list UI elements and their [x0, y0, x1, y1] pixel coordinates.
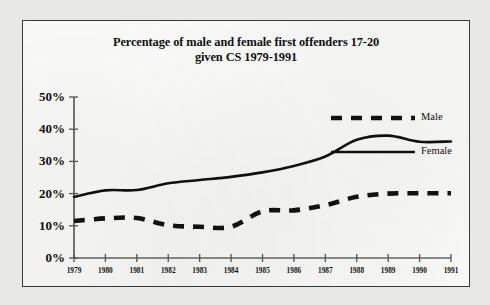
x-axis-label: 1984	[216, 266, 246, 275]
chart-plot-area	[23, 21, 471, 288]
y-axis-label: 0%	[23, 250, 65, 266]
series-line-female	[74, 136, 451, 197]
x-axis-label: 1980	[90, 266, 120, 275]
x-axis-label: 1991	[436, 266, 466, 275]
x-axis-label: 1989	[373, 266, 403, 275]
x-axis-label: 1988	[342, 266, 372, 275]
y-axis-label: 40%	[23, 121, 65, 137]
chart-figure: Percentage of male and female first offe…	[22, 20, 470, 287]
x-axis-label: 1987	[310, 266, 340, 275]
y-axis-label: 30%	[23, 153, 65, 169]
series-line-male	[74, 193, 451, 228]
x-axis-label: 1982	[153, 266, 183, 275]
x-axis-label: 1986	[279, 266, 309, 275]
x-axis-label: 1990	[405, 266, 435, 275]
y-axis-label: 50%	[23, 89, 65, 105]
x-axis-label: 1981	[122, 266, 152, 275]
y-axis-label: 20%	[23, 186, 65, 202]
legend-label-female: Female	[421, 145, 452, 156]
x-axis-label: 1979	[59, 266, 89, 275]
y-axis-label: 10%	[23, 218, 65, 234]
x-axis-label: 1983	[185, 266, 215, 275]
x-axis-label: 1985	[248, 266, 278, 275]
legend-label-male: Male	[421, 111, 443, 122]
